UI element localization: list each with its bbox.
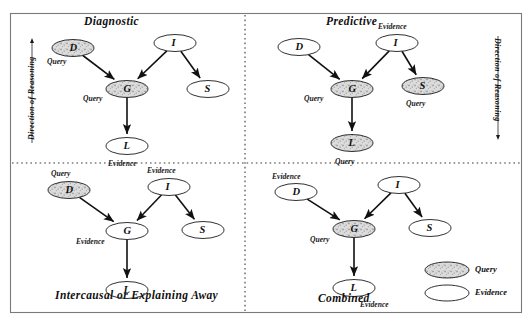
- arrow-up-icon: [30, 38, 34, 43]
- node-label-combined-S: S: [427, 223, 433, 234]
- node-label-intercausal-S: S: [200, 225, 206, 236]
- node-tag-predictive-I: Evidence: [378, 23, 407, 31]
- node-tag-combined-D: Evidence: [272, 173, 301, 181]
- node-tag-predictive-G: Query: [304, 95, 323, 103]
- node-label-combined-I: I: [396, 180, 400, 191]
- node-tag-combined-G: Query: [310, 236, 329, 244]
- edge-combined-I-to-S: [405, 193, 422, 217]
- node-label-predictive-L: L: [349, 138, 355, 149]
- node-label-diagnostic-S: S: [205, 84, 211, 95]
- node-label-predictive-D: D: [296, 42, 304, 53]
- edge-intercausal-D-to-G: [79, 197, 113, 221]
- node-label-intercausal-L: L: [124, 285, 130, 296]
- node-tag-intercausal-D: Query: [51, 170, 70, 178]
- legend-swatch-evidence: [425, 285, 469, 301]
- direction-of-reasoning-left-label: Direction of Reasoning: [28, 57, 36, 141]
- node-label-diagnostic-G: G: [124, 84, 132, 95]
- node-label-predictive-I: I: [394, 38, 398, 49]
- legend-label-evidence: Evidence: [475, 288, 507, 297]
- direction-of-reasoning-right-label: Direction of Reasoning: [493, 38, 501, 122]
- node-tag-intercausal-G: Evidence: [76, 238, 105, 246]
- legend-layer: [425, 262, 469, 301]
- node-label-intercausal-G: G: [124, 226, 132, 237]
- arrow-down-icon: [496, 135, 500, 140]
- node-label-intercausal-I: I: [166, 182, 170, 193]
- edge-diagnostic-I-to-S: [181, 51, 200, 78]
- edge-predictive-I-to-S: [402, 51, 416, 74]
- edge-diagnostic-D-to-G: [83, 56, 114, 80]
- panel-title-diagnostic: Diagnostic: [84, 16, 139, 28]
- edge-combined-I-to-G: [365, 193, 391, 219]
- edge-predictive-I-to-G: [362, 51, 389, 79]
- panel-title-intercausal: Intercausal or Explaining Away: [55, 290, 218, 302]
- edge-intercausal-I-to-G: [137, 195, 161, 221]
- node-label-combined-L: L: [351, 283, 357, 294]
- bayesian-reasoning-figure: Diagnostic Predictive Intercausal or Exp…: [0, 0, 532, 328]
- node-label-diagnostic-D: D: [70, 43, 78, 54]
- edge-predictive-D-to-G: [309, 55, 340, 80]
- node-tag-diagnostic-L: Evidence: [108, 160, 137, 168]
- figure-canvas: [0, 0, 532, 328]
- edge-combined-D-to-G: [307, 199, 340, 220]
- node-tag-predictive-L: Query: [335, 158, 354, 166]
- node-label-combined-G: G: [351, 224, 359, 235]
- node-label-predictive-G: G: [349, 84, 357, 95]
- node-tag-intercausal-I: Evidence: [147, 167, 176, 175]
- node-tag-predictive-S: Query: [406, 100, 425, 108]
- node-label-combined-D: D: [293, 187, 301, 198]
- node-label-predictive-S: S: [420, 81, 426, 92]
- legend-label-query: Query: [475, 265, 497, 274]
- node-label-diagnostic-L: L: [124, 141, 130, 152]
- node-tag-combined-L: Evidence: [360, 301, 389, 309]
- node-tag-diagnostic-D: Query: [47, 58, 66, 66]
- edge-diagnostic-I-to-G: [138, 51, 167, 79]
- legend-swatch-query: [425, 262, 469, 278]
- edge-intercausal-I-to-S: [175, 195, 194, 219]
- node-tag-diagnostic-G: Query: [83, 95, 102, 103]
- node-label-intercausal-D: D: [66, 185, 74, 196]
- panel-title-predictive: Predictive: [326, 16, 377, 28]
- node-label-diagnostic-I: I: [172, 38, 176, 49]
